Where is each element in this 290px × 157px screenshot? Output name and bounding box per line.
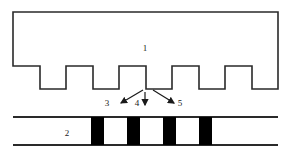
label-2: 2 (65, 128, 70, 138)
label-5: 5 (178, 98, 183, 108)
label-4: 4 (135, 98, 140, 108)
label-1: 1 (143, 43, 148, 53)
label-3: 3 (105, 98, 110, 108)
figure-background (0, 0, 290, 157)
stripe-4 (199, 117, 212, 145)
stripe-2 (127, 117, 140, 145)
stripe-1 (91, 117, 104, 145)
diagram-canvas: 1 3 4 5 2 (0, 0, 290, 157)
technical-diagram-figure: 1 3 4 5 2 (0, 0, 290, 157)
stripe-3 (163, 117, 176, 145)
